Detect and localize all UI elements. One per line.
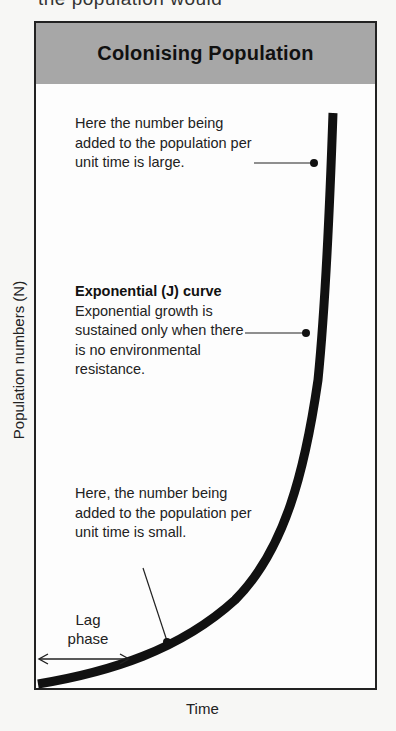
dot-top bbox=[310, 159, 318, 167]
leader-bottom bbox=[143, 568, 167, 641]
annotation-top: Here the number being added to the popul… bbox=[75, 114, 255, 173]
annotation-middle: Exponential (J) curve Exponential growth… bbox=[75, 282, 255, 380]
dot-bottom bbox=[163, 638, 171, 646]
lag-phase-label: Lag phase bbox=[58, 610, 118, 648]
dot-middle bbox=[302, 329, 310, 337]
annotation-middle-body: Exponential growth is sustained only whe… bbox=[75, 303, 243, 378]
annotation-middle-heading: Exponential (J) curve bbox=[75, 283, 222, 299]
y-axis-label: Population numbers (N) bbox=[10, 281, 27, 439]
j-curve bbox=[38, 113, 333, 684]
annotation-bottom: Here, the number being added to the popu… bbox=[75, 484, 255, 543]
x-axis-label: Time bbox=[186, 700, 219, 717]
